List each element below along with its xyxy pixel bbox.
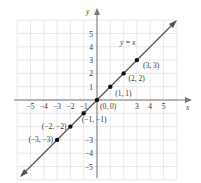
data-point [68, 124, 72, 128]
y-tick-label: 3 [89, 56, 93, 65]
data-point [55, 138, 59, 142]
data-point [135, 58, 139, 62]
point-label: (3, 3) [143, 61, 160, 70]
data-point [121, 71, 125, 75]
point-label: (0, 0) [100, 102, 117, 111]
y-tick-label: −3 [85, 136, 93, 145]
x-tick-label: 5 [162, 102, 166, 111]
y-axis-label: y [85, 7, 90, 16]
y-tick-label: −5 [85, 163, 93, 172]
y-tick-label: 1 [89, 83, 93, 92]
x-tick-label: −3 [53, 102, 61, 111]
data-points: (3, 3)(2, 2)(1, 1)(0, 0)(−1, −1)(−2, −2)… [28, 58, 159, 144]
graph-y-equals-x: −5−4−3−2−134554321−3−4−5 (3, 3)(2, 2)(1,… [0, 0, 201, 183]
x-tick-label: 4 [148, 102, 152, 111]
y-tick-label: 2 [89, 69, 93, 78]
x-tick-label: 3 [135, 102, 139, 111]
data-point [108, 85, 112, 89]
x-axis-label: x [185, 103, 190, 112]
x-tick-label: −4 [40, 102, 48, 111]
point-label: (−3, −3) [28, 135, 53, 144]
x-tick-label: −1 [80, 102, 88, 111]
y-tick-label: 4 [89, 43, 93, 52]
data-point [95, 98, 99, 102]
y-tick-label: 5 [89, 30, 93, 39]
point-label: (−1, −1) [82, 115, 107, 124]
y-tick-label: −4 [85, 149, 93, 158]
point-label: (1, 1) [115, 89, 132, 98]
y-axis-arrow-icon [94, 8, 100, 15]
point-label: (−2, −2) [42, 122, 67, 131]
equation-label: y = x [119, 38, 136, 47]
point-label: (2, 2) [129, 74, 146, 83]
x-tick-label: −2 [66, 102, 74, 111]
x-tick-label: −5 [27, 102, 35, 111]
